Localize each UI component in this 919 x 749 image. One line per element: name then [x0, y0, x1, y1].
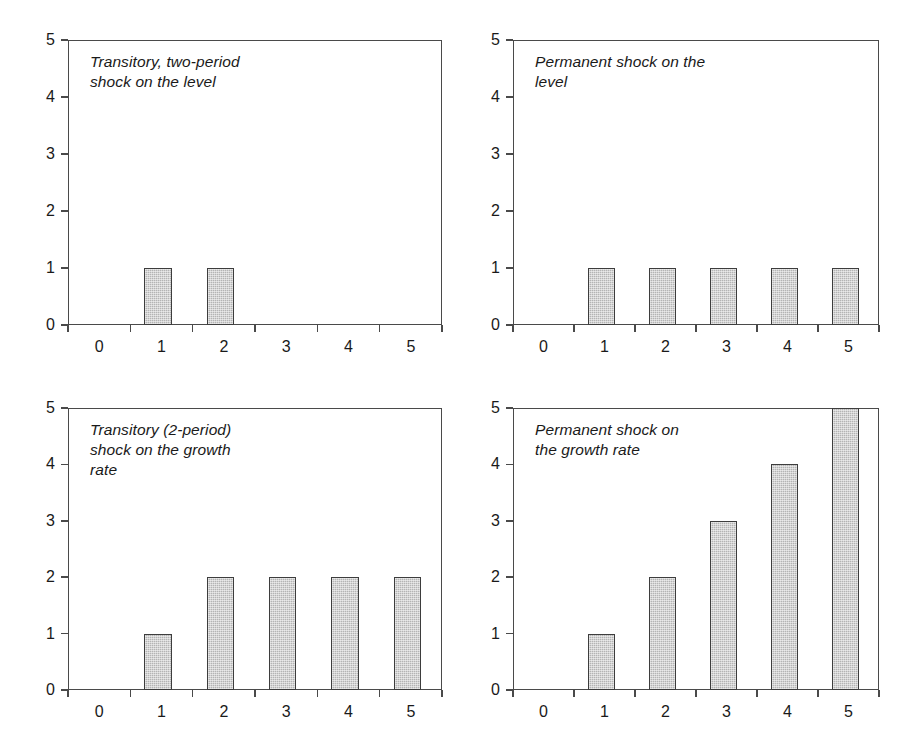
x-tick-mark	[254, 690, 256, 697]
y-tick-mark	[506, 210, 513, 212]
y-tick-mark	[506, 324, 513, 326]
bar	[832, 408, 859, 690]
x-tick-label: 3	[271, 704, 301, 720]
x-tick-mark	[756, 690, 758, 697]
x-tick-mark	[573, 690, 575, 697]
x-tick-label: 0	[84, 704, 114, 720]
x-tick-label: 4	[773, 704, 803, 720]
x-tick-mark	[317, 690, 319, 697]
y-tick-mark	[506, 267, 513, 269]
y-tick-mark	[506, 689, 513, 691]
panel-annotation: Permanent shock on the growth rate	[535, 420, 679, 460]
x-tick-label: 1	[590, 704, 620, 720]
x-tick-mark	[817, 690, 819, 697]
x-tick-mark	[67, 690, 69, 697]
x-tick-mark	[130, 690, 132, 697]
x-tick-mark	[634, 690, 636, 697]
y-tick-label: 5	[33, 32, 55, 48]
chart-panel-permanent-level: Permanent shock on the level012345012345	[0, 0, 919, 749]
y-tick-mark	[61, 576, 68, 578]
x-tick-mark	[695, 690, 697, 697]
y-tick-label: 2	[478, 203, 500, 219]
y-tick-label: 3	[33, 146, 55, 162]
y-tick-label: 1	[33, 260, 55, 276]
x-tick-mark	[130, 325, 132, 332]
x-tick-label: 4	[334, 704, 364, 720]
y-tick-label: 4	[478, 89, 500, 105]
x-tick-mark	[756, 325, 758, 332]
x-tick-mark	[634, 325, 636, 332]
y-tick-mark	[506, 407, 513, 409]
y-tick-mark	[506, 520, 513, 522]
panel-annotation: Permanent shock on the level	[535, 52, 705, 92]
x-tick-label: 2	[209, 704, 239, 720]
x-tick-label: 2	[651, 704, 681, 720]
bar	[771, 464, 798, 690]
y-tick-label: 4	[33, 456, 55, 472]
bar	[649, 268, 676, 325]
panel-annotation: Transitory, two-period shock on the leve…	[90, 52, 240, 92]
y-tick-label: 2	[478, 569, 500, 585]
y-tick-mark	[61, 520, 68, 522]
x-tick-mark	[512, 690, 514, 697]
bar	[394, 577, 421, 690]
y-tick-label: 0	[478, 317, 500, 333]
y-tick-label: 2	[33, 569, 55, 585]
x-tick-label: 5	[396, 704, 426, 720]
x-tick-label: 5	[834, 339, 864, 355]
x-tick-label: 3	[712, 704, 742, 720]
x-tick-mark	[817, 325, 819, 332]
chart-panel-transitory-level: Transitory, two-period shock on the leve…	[0, 0, 919, 749]
y-tick-label: 2	[33, 203, 55, 219]
x-tick-label: 5	[396, 339, 426, 355]
y-tick-label: 3	[33, 513, 55, 529]
x-tick-label: 0	[529, 704, 559, 720]
x-tick-label: 2	[651, 339, 681, 355]
y-tick-mark	[61, 633, 68, 635]
bar	[331, 577, 358, 690]
y-tick-label: 1	[478, 260, 500, 276]
y-tick-mark	[61, 96, 68, 98]
x-tick-label: 0	[84, 339, 114, 355]
y-tick-label: 0	[33, 682, 55, 698]
x-tick-mark	[254, 325, 256, 332]
y-tick-mark	[61, 689, 68, 691]
y-tick-mark	[506, 153, 513, 155]
y-tick-mark	[61, 39, 68, 41]
x-tick-label: 3	[712, 339, 742, 355]
x-tick-label: 1	[590, 339, 620, 355]
bar	[832, 268, 859, 325]
y-tick-label: 4	[478, 456, 500, 472]
x-tick-label: 4	[334, 339, 364, 355]
panel-annotation: Transitory (2-period) shock on the growt…	[90, 420, 231, 480]
x-tick-label: 2	[209, 339, 239, 355]
x-tick-label: 5	[834, 704, 864, 720]
x-tick-mark	[192, 325, 194, 332]
bar	[710, 268, 737, 325]
y-tick-label: 1	[33, 626, 55, 642]
x-tick-label: 4	[773, 339, 803, 355]
y-tick-label: 3	[478, 513, 500, 529]
y-tick-label: 5	[478, 400, 500, 416]
bar	[207, 577, 234, 690]
x-tick-mark	[441, 690, 443, 697]
y-tick-label: 1	[478, 626, 500, 642]
y-tick-label: 4	[33, 89, 55, 105]
y-tick-label: 3	[478, 146, 500, 162]
bar	[649, 577, 676, 690]
plot-area-permanent-growth	[513, 408, 879, 690]
y-tick-mark	[61, 153, 68, 155]
x-tick-mark	[695, 325, 697, 332]
x-tick-mark	[512, 325, 514, 332]
bar	[269, 577, 296, 690]
x-tick-mark	[878, 690, 880, 697]
x-tick-label: 1	[147, 339, 177, 355]
y-tick-mark	[61, 407, 68, 409]
bar	[207, 268, 234, 325]
chart-panel-transitory-growth: Transitory (2-period) shock on the growt…	[0, 0, 919, 749]
y-tick-mark	[506, 39, 513, 41]
y-tick-label: 5	[478, 32, 500, 48]
x-tick-mark	[573, 325, 575, 332]
y-tick-label: 5	[33, 400, 55, 416]
plot-area-transitory-growth	[68, 408, 442, 690]
